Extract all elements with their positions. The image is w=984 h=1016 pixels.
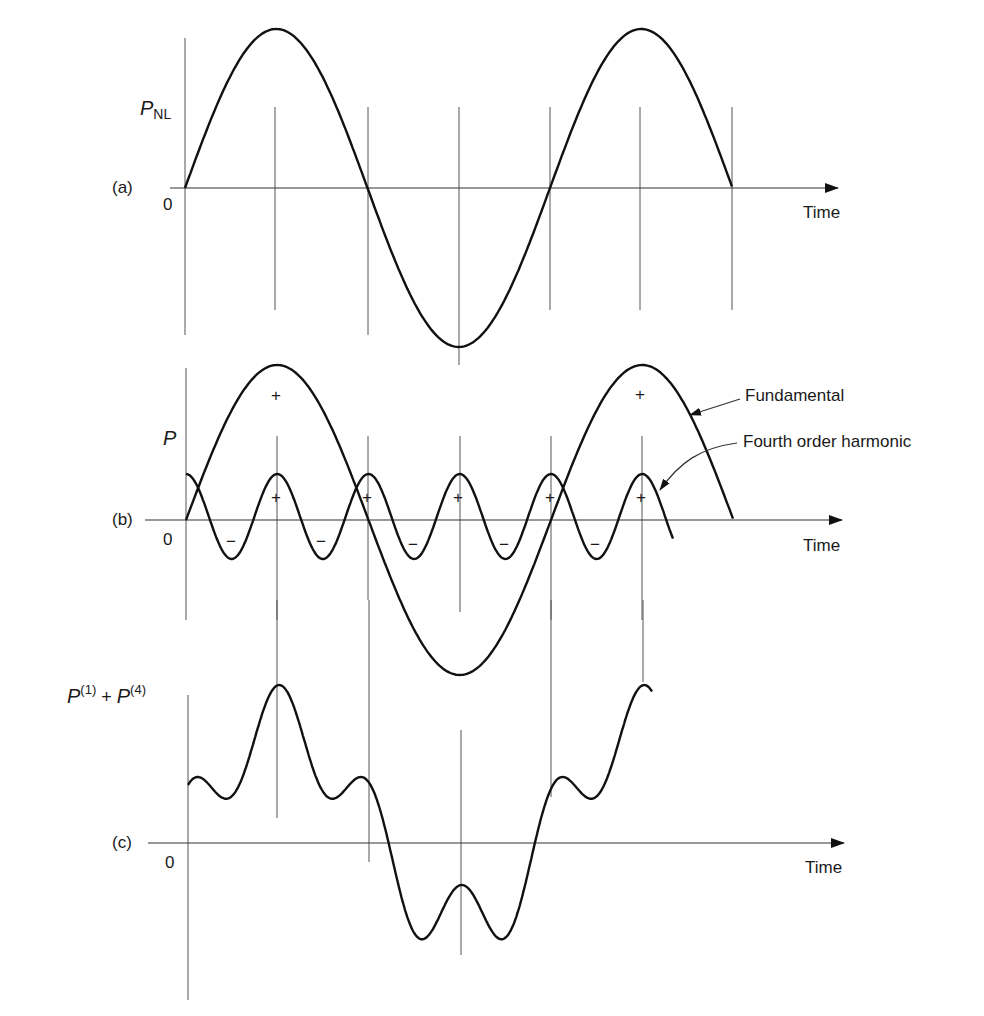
panel-a-gridlines [185,38,732,365]
minus-sign: − [590,536,600,553]
panel-a-ylabel-main: P [140,97,153,119]
plus-sign: + [636,489,646,506]
panel-a-origin: 0 [163,195,172,215]
panel-b [145,365,842,675]
panel-b-gridlines [186,368,642,620]
plus-sign: + [453,489,463,506]
harmonic-label: Fourth order harmonic [743,432,911,452]
fundamental-arrow-icon [690,399,740,415]
panel-c [148,600,844,1000]
panel-c-gridlines [188,600,643,1000]
panel-a-ylabel: PNL [140,97,171,122]
plus-sign: + [545,489,555,506]
panel-c-xlabel: Time [805,858,842,878]
panel-b-origin: 0 [163,530,172,550]
panel-c-sum-curve [188,685,652,939]
panel-a-ylabel-sub: NL [153,106,171,122]
minus-sign: − [226,533,236,550]
plus-sign: + [362,489,372,506]
panel-c-ylabel-sup1: (1) [80,682,96,697]
minus-sign: − [408,536,418,553]
panel-c-ylabel-p1: P [67,685,80,707]
panel-c-ylabel: P(1) + P(4) [67,682,146,708]
panel-c-origin: 0 [165,853,174,873]
panel-c-ylabel-p4: P [117,685,130,707]
panel-b-ylabel: P [163,427,176,450]
panel-b-tag: (b) [112,510,133,530]
panel-c-tag: (c) [112,833,132,853]
minus-sign: − [499,536,509,553]
panel-c-ylabel-sup4: (4) [130,682,146,697]
panel-a [170,29,838,365]
plus-sign: + [635,386,645,403]
panel-c-ylabel-plus: + [96,687,117,707]
fundamental-label: Fundamental [745,386,844,406]
plus-sign: + [271,387,281,404]
harmonic-arrow-icon [660,443,737,490]
plus-sign: + [271,489,281,506]
panel-a-xlabel: Time [803,203,840,223]
panel-a-tag: (a) [112,178,133,198]
minus-sign: − [316,533,326,550]
panel-b-xlabel: Time [803,536,840,556]
